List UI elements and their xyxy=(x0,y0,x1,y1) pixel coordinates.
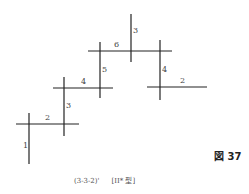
segment-label-v5: 5 xyxy=(102,66,107,74)
caption-code: (3-3-2)' xyxy=(74,177,99,185)
figure-caption: (3-3-2)'[II* 型] xyxy=(74,175,135,185)
figure-number: 図 37 xyxy=(214,148,241,163)
segment-label-h2: 2 xyxy=(45,114,50,122)
segment-label-h4: 4 xyxy=(81,78,86,86)
line-diagram xyxy=(0,0,249,194)
segment-label-v3b: 3 xyxy=(133,27,138,35)
segment-label-v4b: 4 xyxy=(162,66,167,74)
diagram-canvas: 123456342 図 37 (3-3-2)'[II* 型] xyxy=(0,0,249,194)
segment-label-v1: 1 xyxy=(23,142,28,150)
caption-type: [II* 型] xyxy=(111,177,135,185)
segment-label-h6: 6 xyxy=(114,41,119,49)
segment-label-h2b: 2 xyxy=(180,77,185,85)
segment-label-v3: 3 xyxy=(66,102,71,110)
